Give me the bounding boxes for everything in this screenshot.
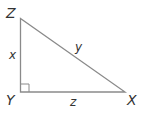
vertex-label-y: Y [6,92,16,108]
triangle-diagram: Z Y X x y z [0,0,143,114]
vertex-label-x: X [126,92,137,108]
side-label-z: z [69,95,77,109]
side-label-y: y [74,40,83,54]
triangle [21,19,126,93]
right-angle-marker [21,84,30,92]
vertex-label-z: Z [5,5,16,21]
side-label-x: x [8,48,17,62]
